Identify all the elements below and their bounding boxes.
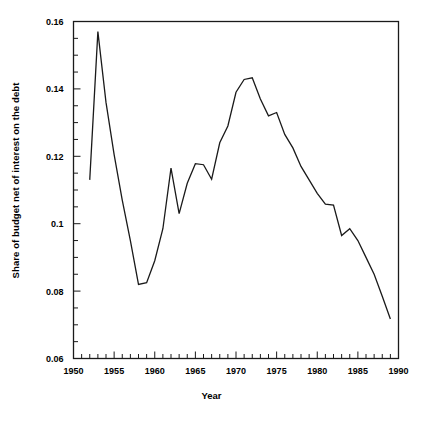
- y-tick-label: 0.14: [46, 84, 64, 94]
- x-tick-label: 1960: [145, 366, 165, 376]
- x-tick-label: 1970: [226, 366, 246, 376]
- x-tick-label: 1985: [348, 366, 368, 376]
- data-line: [90, 32, 391, 319]
- x-tick-label: 1955: [104, 366, 124, 376]
- x-tick-label: 1980: [307, 366, 327, 376]
- data-series-group: [90, 32, 391, 319]
- y-tick-labels: 0.060.080.10.120.140.16: [46, 17, 64, 364]
- y-tick-label: 0.12: [46, 152, 64, 162]
- x-axis-title: Year: [0, 390, 423, 401]
- tick-marks-group: [74, 22, 399, 359]
- y-tick-label: 0.06: [46, 354, 64, 364]
- x-tick-label: 1950: [63, 366, 83, 376]
- axes-group: [74, 22, 399, 359]
- x-tick-labels: 195019551960196519701975198019851990: [63, 366, 408, 376]
- x-tick-label: 1975: [267, 366, 287, 376]
- x-tick-label: 1965: [185, 366, 205, 376]
- y-tick-label: 0.16: [46, 17, 64, 27]
- line-chart: 0.060.080.10.120.140.16 1950195519601965…: [0, 0, 423, 428]
- y-tick-label: 0.1: [51, 219, 64, 229]
- y-tick-label: 0.08: [46, 287, 64, 297]
- figure-container: Share of budget net of interest on the d…: [0, 0, 423, 428]
- x-tick-label: 1990: [388, 366, 408, 376]
